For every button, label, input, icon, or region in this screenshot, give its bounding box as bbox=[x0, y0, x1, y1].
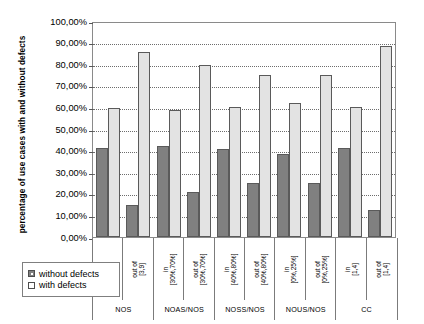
x-axis-group-label: NOUS/NOS bbox=[274, 300, 336, 320]
bar-with-defects bbox=[320, 75, 332, 237]
y-axis-tick-label: 80,00% bbox=[55, 60, 87, 70]
x-axis-group-label: NOS bbox=[92, 300, 154, 320]
bar-with-defects bbox=[138, 52, 150, 237]
x-axis-group-label: NOAS/NOS bbox=[153, 300, 215, 320]
bar-group bbox=[304, 23, 334, 237]
bar-without-defects bbox=[187, 192, 199, 237]
y-axis-tick-label: 90,00% bbox=[55, 38, 87, 48]
bar-with-defects bbox=[350, 107, 362, 236]
bar-without-defects bbox=[277, 154, 289, 237]
plot-area bbox=[92, 22, 396, 238]
x-axis-category-label: out of[30%,70%] bbox=[183, 238, 214, 300]
y-axis-tick-label: 10,00% bbox=[55, 211, 87, 221]
bar-with-defects bbox=[259, 75, 271, 237]
bar-group bbox=[365, 23, 395, 237]
legend-label-with-defects: with defects bbox=[39, 280, 87, 290]
x-axis-category-label: out of[3,9] bbox=[122, 238, 153, 300]
bar-group bbox=[153, 23, 183, 237]
x-axis-group-label: NOSS/NOS bbox=[214, 300, 276, 320]
legend-item: with defects bbox=[28, 280, 114, 290]
bar-without-defects bbox=[157, 146, 169, 237]
bar-group bbox=[244, 23, 274, 237]
legend: without defects with defects bbox=[22, 262, 120, 297]
y-axis-tick-label: 0,00% bbox=[61, 233, 87, 243]
y-axis-tick-label: 60,00% bbox=[55, 103, 87, 113]
bar-without-defects bbox=[217, 149, 229, 236]
bar-group bbox=[93, 23, 123, 237]
x-axis-category-labels: in[3,9]out of[3,9]in[30%,70%]out of[30%,… bbox=[92, 238, 396, 300]
bar-group bbox=[335, 23, 365, 237]
legend-item: without defects bbox=[28, 269, 114, 279]
x-axis-category-label: in[40%,80%] bbox=[214, 238, 245, 300]
bar-with-defects bbox=[199, 65, 211, 237]
x-axis-group-labels: NOSNOAS/NOSNOSS/NOSNOUS/NOSCC bbox=[92, 300, 396, 320]
x-axis-category-label: out of[0%,25%] bbox=[305, 238, 336, 300]
bar-with-defects bbox=[169, 110, 181, 236]
legend-swatch-with-defects-icon bbox=[28, 282, 35, 289]
bar-without-defects bbox=[126, 205, 138, 237]
bar-group bbox=[184, 23, 214, 237]
x-axis-group-label: CC bbox=[335, 300, 398, 320]
legend-swatch-without-defects-icon bbox=[28, 270, 35, 277]
bar-without-defects bbox=[368, 210, 380, 237]
y-axis-tick-label: 70,00% bbox=[55, 81, 87, 91]
bar-series-container bbox=[93, 23, 395, 237]
bar-chart: percentage of use cases with and without… bbox=[0, 0, 424, 324]
bar-group bbox=[214, 23, 244, 237]
y-axis-tick-label: 50,00% bbox=[55, 125, 87, 135]
bar-with-defects bbox=[229, 107, 241, 237]
x-axis-category-label: out of[40%,80%] bbox=[244, 238, 275, 300]
y-axis-title: percentage of use cases with and without… bbox=[14, 18, 32, 250]
y-axis-tick-labels: 0,00%10,00%20,00%30,00%40,00%50,00%60,00… bbox=[33, 16, 90, 240]
bar-group bbox=[274, 23, 304, 237]
y-axis-title-text: percentage of use cases with and without… bbox=[19, 35, 28, 233]
y-axis-tick-label: 100,00% bbox=[50, 17, 87, 27]
bar-with-defects bbox=[380, 46, 392, 236]
bar-without-defects bbox=[308, 183, 320, 237]
y-axis-tick-label: 30,00% bbox=[55, 168, 87, 178]
bar-with-defects bbox=[289, 103, 301, 236]
bar-without-defects bbox=[247, 183, 259, 237]
x-axis-category-label: in[30%,70%] bbox=[153, 238, 184, 300]
bar-without-defects bbox=[96, 148, 108, 237]
x-axis-category-label: in[1,4] bbox=[335, 238, 366, 300]
x-axis-category-label: in[0%,25%] bbox=[274, 238, 305, 300]
bar-group bbox=[123, 23, 153, 237]
bar-without-defects bbox=[338, 148, 350, 237]
y-axis-tick-label: 20,00% bbox=[55, 189, 87, 199]
y-axis-tick-label: 40,00% bbox=[55, 146, 87, 156]
bar-with-defects bbox=[108, 108, 120, 237]
x-axis-category-label: out of[1,4] bbox=[366, 238, 398, 300]
legend-label-without-defects: without defects bbox=[39, 269, 99, 279]
